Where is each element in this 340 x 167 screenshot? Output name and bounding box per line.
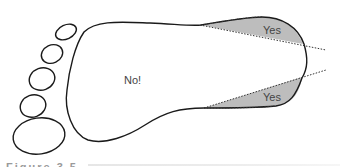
heel-upper-yes-region [201,17,303,44]
figure-caption: Figure 3.5 [6,161,78,167]
toe-4 [17,91,49,121]
toe-2 [38,41,66,67]
footprint-diagram: No! Yes Yes [0,0,340,167]
sole-label: No! [124,74,141,86]
toe-3 [26,64,58,94]
toe-1-small [53,21,79,43]
heel-lower-label: Yes [263,91,281,103]
toe-5-big [11,115,68,158]
heel-upper-label: Yes [263,24,281,36]
caption-divider [88,164,340,166]
